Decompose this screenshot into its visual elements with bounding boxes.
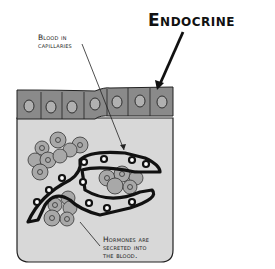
diagram-title: Endocrine: [148, 10, 235, 30]
blood-label-line2: capillaries: [38, 42, 72, 50]
hormone-label-line3: the blood.: [103, 252, 149, 260]
blood-label: Blood in capillaries: [38, 34, 72, 50]
endocrine-pointer-arrow: [160, 32, 183, 84]
hormone-label: Hormones are secreted into the blood.: [103, 236, 149, 260]
